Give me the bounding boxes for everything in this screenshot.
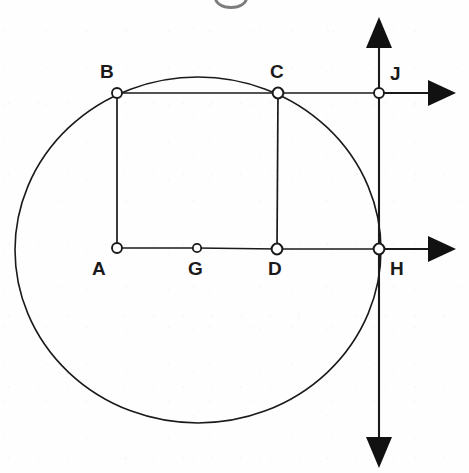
point-marker-B[interactable] (112, 88, 122, 98)
geometry-diagram: B C J A G D H (0, 0, 469, 473)
point-label-A: A (92, 259, 106, 278)
point-markers-group (112, 88, 384, 255)
point-label-C: C (270, 62, 284, 81)
point-label-B: B (100, 62, 114, 81)
arrowhead-right-lower-icon (428, 236, 456, 262)
point-marker-D[interactable] (272, 244, 283, 255)
segments-group (117, 93, 379, 249)
point-marker-H[interactable] (374, 244, 385, 255)
point-marker-G[interactable] (193, 244, 201, 252)
point-marker-J[interactable] (374, 88, 384, 98)
segment-G-D (197, 248, 277, 249)
point-label-J: J (390, 64, 401, 83)
arrowhead-up-icon (366, 17, 392, 48)
point-label-G: G (188, 259, 203, 278)
arrowhead-down-icon (366, 437, 392, 468)
segment-C-D (277, 93, 278, 249)
point-label-H: H (390, 259, 404, 278)
point-marker-A[interactable] (112, 243, 122, 253)
arrowhead-right-upper-icon (428, 80, 456, 106)
point-label-D: D (268, 259, 282, 278)
point-marker-C[interactable] (273, 88, 284, 99)
